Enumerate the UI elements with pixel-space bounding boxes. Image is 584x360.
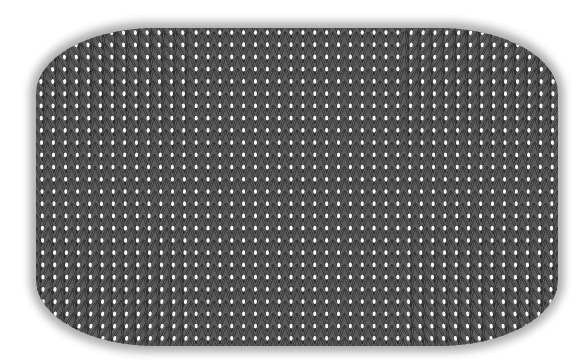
knit-swatch-image: [0, 0, 584, 360]
